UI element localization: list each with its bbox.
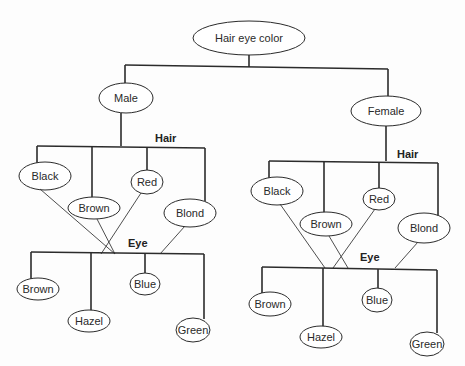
female-label: Female: [368, 105, 405, 117]
female-node: Female: [351, 96, 421, 126]
male-hair-brown: Brown: [68, 197, 120, 219]
root-edges: [125, 55, 388, 96]
svg-text:Hazel: Hazel: [75, 315, 103, 327]
male-hair-black: Black: [19, 162, 71, 190]
svg-text:Blue: Blue: [134, 278, 156, 290]
female-cross-edges: [280, 204, 418, 268]
svg-text:Hazel: Hazel: [307, 331, 335, 343]
svg-text:Brown: Brown: [22, 283, 53, 295]
svg-text:Blond: Blond: [410, 222, 438, 234]
male-node: Male: [99, 83, 153, 113]
svg-text:Brown: Brown: [254, 298, 285, 310]
male-hair-label: Hair: [155, 132, 177, 144]
svg-text:Brown: Brown: [310, 218, 341, 230]
svg-text:Blond: Blond: [176, 207, 204, 219]
svg-text:Green: Green: [178, 324, 209, 336]
root-label: Hair eye color: [215, 32, 283, 44]
male-eye-label: Eye: [128, 237, 148, 249]
female-hair-brown: Brown: [300, 212, 352, 236]
tree-diagram: Hair eye color Male Hair Black Brown Red…: [0, 0, 465, 366]
male-eye-hazel: Hazel: [68, 310, 110, 332]
root-node: Hair eye color: [193, 21, 305, 55]
male-eye-green: Green: [176, 318, 210, 342]
male-hair-red: Red: [131, 170, 163, 194]
svg-text:Black: Black: [264, 185, 291, 197]
svg-text:Green: Green: [412, 338, 443, 350]
male-eye-blue: Blue: [130, 273, 160, 295]
male-label: Male: [114, 92, 138, 104]
female-hair-edges: [269, 126, 438, 216]
male-hair-blond: Blond: [164, 199, 216, 227]
female-eye-label: Eye: [360, 251, 380, 263]
male-cross-edges: [40, 189, 185, 254]
male-eye-brown: Brown: [17, 278, 59, 300]
female-hair-red: Red: [363, 188, 395, 210]
svg-text:Blue: Blue: [366, 294, 388, 306]
diagram-canvas: Hair eye color Male Hair Black Brown Red…: [0, 0, 465, 366]
svg-text:Red: Red: [369, 193, 389, 205]
female-eye-blue: Blue: [362, 288, 392, 312]
female-eye-brown: Brown: [249, 292, 291, 316]
svg-text:Red: Red: [137, 176, 157, 188]
female-hair-blond: Blond: [398, 213, 450, 243]
svg-text:Black: Black: [32, 170, 59, 182]
female-eye-hazel: Hazel: [300, 326, 342, 348]
male-hair-edges: [37, 113, 205, 203]
female-eye-green: Green: [410, 332, 444, 356]
female-hair-black: Black: [251, 177, 303, 205]
female-hair-label: Hair: [397, 148, 419, 160]
svg-text:Brown: Brown: [78, 202, 109, 214]
